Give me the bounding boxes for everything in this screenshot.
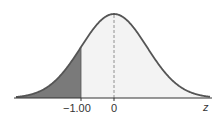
tick-label-0: 0 bbox=[111, 103, 117, 114]
tick-label-neg1: −1.00 bbox=[63, 103, 91, 114]
shaded-left-tail bbox=[16, 47, 81, 98]
unshaded-region bbox=[81, 14, 210, 98]
axis-label-z: z bbox=[203, 102, 209, 113]
